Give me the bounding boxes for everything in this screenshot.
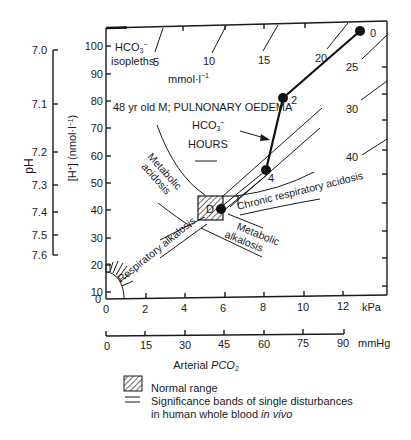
isopleth-label: 10 (203, 55, 215, 67)
x-axis-mmhg: 0 15 30 45 60 75 90 mmHg (104, 329, 390, 352)
point-label: 2 (291, 94, 297, 106)
x-axis-title: Arterial PCO2 (173, 359, 239, 372)
x-tick-kpa: 10 (297, 301, 309, 313)
y-tick-label: 20 (91, 259, 103, 271)
x-tick-kpa: 4 (181, 302, 187, 314)
ph-scale: 7.0 7.1 7.2 7.3 7.4 7.5 7.6 pH (22, 44, 58, 261)
y-tick-label: 40 (91, 204, 103, 216)
ph-tick-label: 7.3 (32, 179, 47, 191)
band-respiratory-alkalosis: Respiratory alkalosis (115, 214, 207, 284)
x-tick-mmhg: 0 (104, 340, 110, 352)
y-tick-label: 70 (91, 122, 103, 134)
x-tick-kpa: 12 (337, 300, 349, 312)
mmol-unit-label: mmol·l−1 (168, 72, 209, 85)
ph-tick-label: 7.4 (32, 206, 47, 218)
legend: Normal range Significance bands of singl… (124, 376, 353, 420)
arrow-icon (240, 131, 270, 141)
point-label: 4 (268, 172, 274, 184)
legend-bands-line2: in human whole blood in vivo (151, 408, 292, 420)
isopleth-label: 15 (258, 54, 270, 66)
ph-tick-label: 7.6 (32, 249, 47, 261)
x-tick-mmhg: 30 (179, 339, 191, 351)
y-tick-label: 90 (91, 68, 103, 80)
isopleth-label: 30 (346, 103, 358, 115)
right-ticks (382, 67, 387, 286)
x-tick-kpa: 2 (142, 303, 148, 315)
y-tick-label: 80 (91, 95, 103, 107)
x-tick-kpa: 6 (220, 302, 226, 314)
y-tick-label: 60 (91, 150, 103, 162)
isopleth-label: 40 (346, 151, 358, 163)
hco3-annotation: HCO3− (192, 119, 224, 132)
case-title: 48 yr old M; PULNONARY OEDEMA (113, 101, 293, 113)
x-tick-mmhg: 90 (337, 337, 349, 349)
data-point-d (216, 204, 226, 214)
x-tick-mmhg: 15 (140, 339, 152, 351)
ph-tick-label: 7.1 (32, 98, 47, 110)
x-unit-kpa: kPa (362, 301, 382, 313)
x-axis-kpa: 0 2 4 6 8 10 12 kPa (103, 291, 382, 315)
band-label: Chronic respiratory acidosis (236, 169, 365, 212)
x-unit-mmhg: mmHg (358, 337, 390, 349)
y-axis: 100 90 80 70 60 50 40 30 20 10 0 (85, 40, 111, 305)
isopleth-label: 25 (346, 61, 358, 73)
band-label: Respiratory alkalosis (115, 214, 198, 284)
legend-normal-range: Normal range (151, 382, 218, 394)
isopleths-label: isopleths (111, 55, 155, 67)
isopleths-label: HCO3− (115, 41, 147, 54)
x-tick-mmhg: 60 (258, 338, 270, 350)
y-tick-label: 50 (91, 177, 103, 189)
ph-tick-label: 7.5 (32, 229, 47, 241)
legend-bands-line1: Significance bands of single disturbance… (151, 395, 353, 407)
h-axis-label: [H+] (nmol·l−1) (66, 115, 78, 181)
ph-tick-label: 7.0 (32, 44, 47, 56)
x-tick-mmhg: 75 (297, 337, 309, 349)
band-chronic-respiratory-acidosis: Chronic respiratory acidosis (236, 169, 365, 215)
data-point-hour-0 (355, 26, 365, 36)
y-tick-label: 0 (95, 293, 101, 305)
y-tick-label: 30 (91, 232, 103, 244)
ph-tick-label: 7.2 (32, 146, 47, 158)
y-tick-label: 100 (85, 40, 103, 52)
x-tick-kpa: 8 (260, 301, 266, 313)
legend-hatch-swatch (124, 376, 142, 391)
acid-base-diagram: 7.0 7.1 7.2 7.3 7.4 7.5 7.6 pH [H+] (nmo… (0, 0, 411, 440)
point-label: 0 (370, 27, 376, 39)
ph-axis-label: pH (22, 158, 36, 173)
x-tick-mmhg: 45 (218, 338, 230, 350)
x-tick-kpa: 0 (103, 303, 109, 315)
hours-annotation: HOURS (188, 138, 228, 150)
data-point-hour-2 (278, 93, 288, 103)
point-label: D (206, 203, 214, 215)
